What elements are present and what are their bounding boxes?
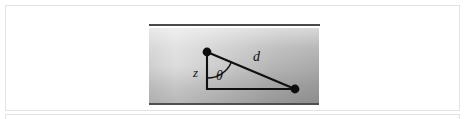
page-root: z θ d: [0, 0, 465, 119]
figure-block: z θ d: [144, 20, 320, 104]
far-vertex-dot: [291, 85, 300, 94]
figure-plate: z θ d: [149, 28, 319, 105]
figure-top-rule: [149, 24, 320, 26]
angle-label: θ: [216, 68, 223, 83]
vertical-leg-label: z: [192, 65, 198, 80]
apex-vertex-dot: [203, 48, 212, 57]
hypotenuse-label: d: [253, 49, 261, 64]
geometry-diagram: z θ d: [149, 28, 319, 103]
figure-card: z θ d: [5, 5, 460, 111]
following-card: [5, 114, 460, 119]
